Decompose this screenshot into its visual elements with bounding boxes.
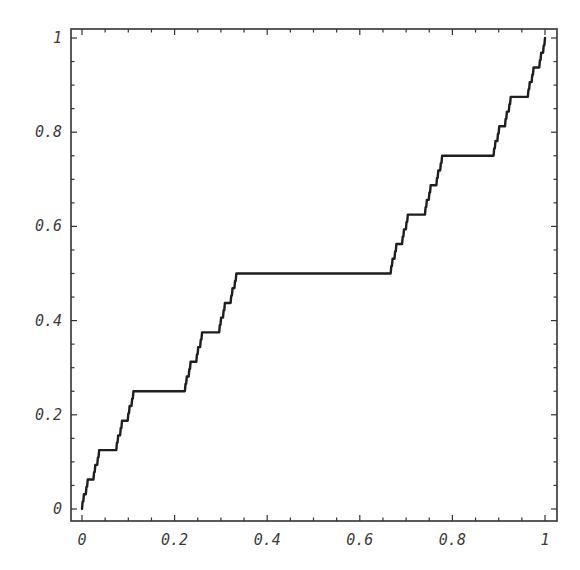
y-tick-label: 0.4	[35, 312, 62, 330]
x-tick-label: 0.2	[161, 531, 188, 549]
x-tick-label: 0.6	[346, 531, 373, 549]
cantor-function-chart: 00.20.40.60.81 00.20.40.60.81	[0, 0, 580, 570]
x-tick-label: 0	[77, 531, 86, 549]
y-tick-label: 0.6	[35, 217, 62, 235]
x-tick-label: 0.4	[254, 531, 281, 549]
y-tick-label: 0	[53, 500, 62, 518]
y-tick-label: 0.8	[35, 123, 62, 141]
axis-ticks	[71, 29, 557, 521]
cantor-staircase-curve	[82, 38, 545, 509]
x-tick-label: 0.8	[439, 531, 466, 549]
y-tick-label: 1	[53, 29, 62, 47]
plot-frame	[71, 29, 557, 521]
x-tick-label: 1	[540, 531, 549, 549]
y-axis-tick-labels: 00.20.40.60.81	[35, 29, 62, 518]
y-tick-label: 0.2	[35, 406, 62, 424]
x-axis-tick-labels: 00.20.40.60.81	[77, 531, 549, 549]
